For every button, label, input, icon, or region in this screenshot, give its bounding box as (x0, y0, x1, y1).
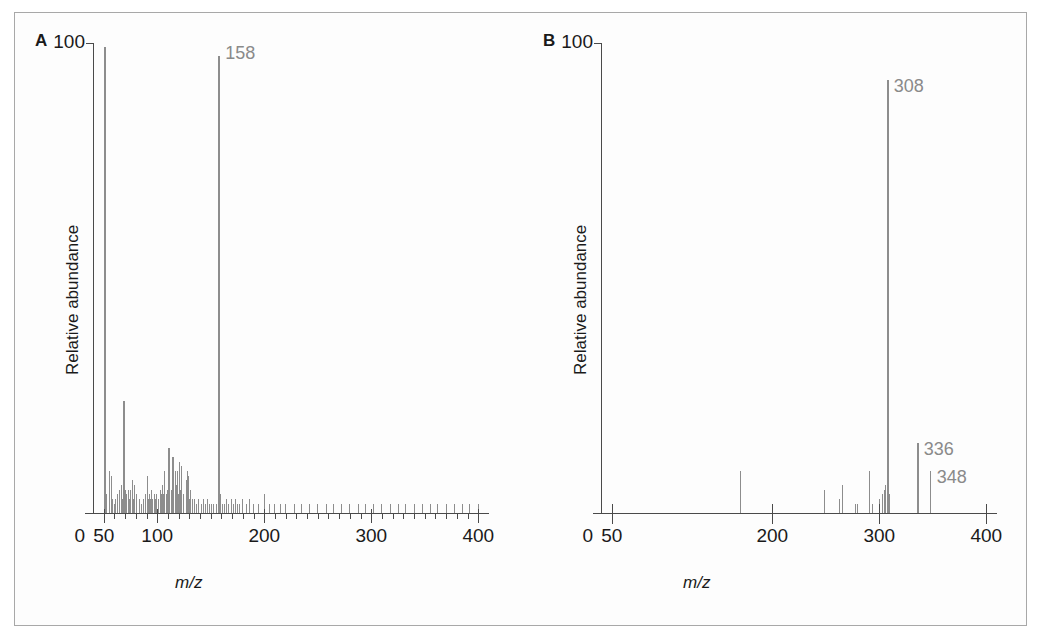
peak (373, 504, 374, 513)
peak (405, 504, 406, 513)
peak (414, 504, 415, 513)
x-axis-minor-tick (393, 514, 394, 519)
peak (136, 494, 137, 513)
panel-b-y-axis-title: Relative abundance (571, 225, 591, 375)
x-axis-minor-tick (425, 514, 426, 519)
peak (239, 504, 240, 513)
x-axis-tick-label: 400 (448, 525, 508, 547)
peak (194, 499, 195, 513)
x-axis-minor-tick (254, 514, 255, 519)
peak (309, 504, 310, 513)
x-axis-minor-tick (232, 514, 233, 519)
peak (824, 490, 825, 513)
x-axis-minor-tick (361, 514, 362, 519)
panel-a-y-axis-title: Relative abundance (63, 225, 83, 375)
peak (228, 504, 229, 513)
x-axis-tick-label: 200 (742, 525, 802, 547)
peak (294, 504, 295, 513)
peak (381, 504, 382, 513)
panel-a-x-axis-title: m/z (175, 573, 202, 593)
peak (164, 471, 165, 513)
peak (198, 499, 199, 513)
x-axis-major-tick (478, 509, 479, 523)
peak (139, 499, 140, 513)
peak (437, 504, 438, 513)
peak (365, 504, 366, 513)
peak (231, 499, 232, 513)
peak (201, 504, 202, 513)
peak-label: 308 (894, 76, 924, 97)
x-axis-tick-label: 200 (234, 525, 294, 547)
x-axis-minor-tick (446, 514, 447, 519)
peak (842, 485, 843, 513)
peak (226, 499, 227, 513)
peak (109, 471, 110, 513)
peak (469, 504, 470, 513)
panel-a-y-max-label: 100 (45, 31, 85, 53)
x-axis-minor-tick (318, 514, 319, 519)
peak (857, 504, 858, 513)
peak (253, 504, 254, 513)
peak (869, 471, 870, 513)
peak (141, 504, 142, 513)
peak (333, 504, 334, 513)
peak (222, 504, 223, 513)
peak (134, 485, 135, 513)
peak (855, 504, 856, 513)
peak (183, 494, 184, 513)
x-axis-minor-tick (414, 514, 415, 519)
x-axis-minor-tick (125, 514, 126, 519)
peak (205, 504, 206, 513)
x-axis-major-tick (157, 509, 158, 523)
peak (218, 56, 220, 513)
peak (196, 504, 197, 513)
peak (237, 504, 238, 513)
x-axis-minor-tick (189, 514, 190, 519)
peak (112, 499, 113, 513)
peak (285, 504, 286, 513)
peak (126, 494, 127, 513)
x-axis-tick-label: 50 (582, 525, 642, 547)
x-axis-minor-tick (350, 514, 351, 519)
x-axis-minor-tick (339, 514, 340, 519)
peak (930, 471, 931, 513)
peak (887, 80, 889, 513)
x-axis-minor-tick (403, 514, 404, 519)
peak (341, 504, 342, 513)
peak (301, 504, 302, 513)
x-axis-minor-tick (275, 514, 276, 519)
peak (181, 466, 182, 513)
peak (213, 504, 214, 513)
peak (326, 504, 327, 513)
peak (839, 499, 840, 513)
x-axis-minor-tick (179, 514, 180, 519)
x-axis-minor-tick (286, 514, 287, 519)
figure-frame: A 100 0 Relative abundance m/z 501002003… (14, 12, 1027, 626)
peak (317, 504, 318, 513)
x-axis-tick-label: 400 (956, 525, 1016, 547)
x-axis-minor-tick (136, 514, 137, 519)
peak (119, 490, 120, 513)
x-axis-minor-tick (328, 514, 329, 519)
peak (104, 47, 106, 513)
peak (235, 499, 236, 513)
peak (207, 499, 208, 513)
x-axis-major-tick (264, 509, 265, 523)
x-axis-minor-tick (296, 514, 297, 519)
x-axis-tick-label: 100 (127, 525, 187, 547)
x-axis-tick-label: 300 (341, 525, 401, 547)
peak (143, 499, 144, 513)
peak (398, 504, 399, 513)
peak (130, 490, 131, 513)
peak (249, 499, 250, 513)
x-axis-line (593, 513, 997, 514)
peak (190, 490, 191, 513)
peak (269, 504, 270, 513)
x-axis-major-tick (879, 504, 880, 524)
peak (280, 504, 281, 513)
peak (220, 494, 221, 513)
x-axis-minor-tick (147, 514, 148, 519)
x-axis-minor-tick (168, 514, 169, 519)
panel-a: A 100 0 Relative abundance m/z 501002003… (15, 13, 521, 627)
panel-b-y-max-label: 100 (553, 31, 593, 53)
